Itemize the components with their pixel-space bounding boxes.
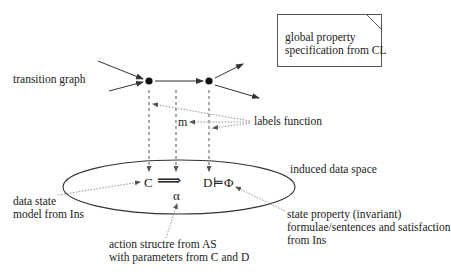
- induced-data-space-label: induced data space: [290, 163, 377, 176]
- global-property-line2: specification from CL: [285, 44, 387, 57]
- labels-pointer-1: [153, 104, 250, 121]
- state-property-pointer: [236, 187, 285, 211]
- incoming-edge-2: [109, 82, 143, 91]
- phi-symbol: Φ: [224, 176, 234, 190]
- global-property-box: global property specification from CL: [277, 14, 382, 67]
- transition-graph-label: transition graph: [13, 73, 86, 86]
- data-state-line1: data state: [13, 195, 84, 208]
- action-arrow: ⟹: [157, 174, 181, 188]
- state-d: D: [203, 176, 212, 190]
- action-line2: with parameters from C and D: [109, 251, 249, 264]
- labels-pointer-3: [213, 123, 250, 128]
- state-property-line1: state property (invariant): [287, 208, 451, 221]
- global-property-text: global property specification from CL: [285, 31, 387, 57]
- incoming-edge-1: [98, 61, 143, 79]
- outgoing-edge-2: [215, 85, 259, 98]
- global-property-line1: global property: [285, 31, 387, 44]
- m-label: m: [178, 116, 187, 129]
- action-pointer: [166, 204, 177, 238]
- outgoing-edge-1: [215, 64, 243, 78]
- state-property-line2: formulae/sentences and satisfaction: [287, 221, 451, 234]
- action-line1: action structre from AS: [109, 238, 249, 251]
- data-state-line2: model from Ins: [13, 208, 84, 221]
- state-node-2[interactable]: [205, 77, 212, 84]
- labels-function-label: labels function: [254, 115, 322, 128]
- state-node-1[interactable]: [145, 77, 152, 84]
- models-symbol: ⊨: [213, 176, 224, 190]
- data-state-label: data state model from Ins: [13, 195, 84, 221]
- state-c: C: [144, 176, 153, 190]
- state-property-label: state property (invariant) formulae/sent…: [287, 208, 451, 247]
- state-property-line3: from Ins: [287, 234, 451, 247]
- alpha-symbol: α: [173, 189, 180, 203]
- action-structure-label: action structre from AS with parameters …: [109, 238, 249, 264]
- data-state-pointer: [58, 182, 140, 195]
